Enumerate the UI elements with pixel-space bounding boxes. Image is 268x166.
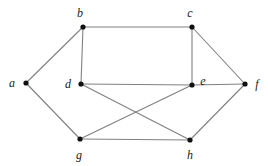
- graph-vertex-d: [78, 81, 83, 86]
- graph-edge-a-g: [26, 83, 80, 139]
- vertex-label-b: b: [77, 6, 83, 20]
- graph-edge-a-b: [26, 27, 83, 83]
- edges-group: [26, 27, 245, 140]
- graph-vertex-e: [189, 82, 194, 87]
- graph-edge-g-h: [80, 139, 190, 140]
- graph-edge-e-g: [80, 85, 192, 139]
- vertex-label-f: f: [255, 77, 260, 91]
- graph-diagram: abcdefgh: [0, 0, 268, 166]
- graph-vertex-c: [189, 24, 194, 29]
- vertices-group: [23, 24, 247, 142]
- graph-vertex-a: [23, 80, 28, 85]
- graph-vertex-g: [77, 136, 82, 141]
- graph-vertex-f: [242, 81, 247, 86]
- vertex-label-h: h: [187, 148, 193, 162]
- vertex-label-d: d: [65, 77, 72, 91]
- graph-edge-h-f: [190, 84, 245, 140]
- graph-vertex-h: [187, 137, 192, 142]
- graph-edge-b-d: [81, 27, 83, 84]
- graph-vertex-b: [80, 24, 85, 29]
- vertex-label-a: a: [9, 76, 15, 90]
- vertex-label-g: g: [76, 148, 82, 162]
- vertex-label-c: c: [187, 6, 193, 20]
- vertex-label-e: e: [200, 74, 206, 88]
- graph-edge-d-e: [81, 84, 192, 85]
